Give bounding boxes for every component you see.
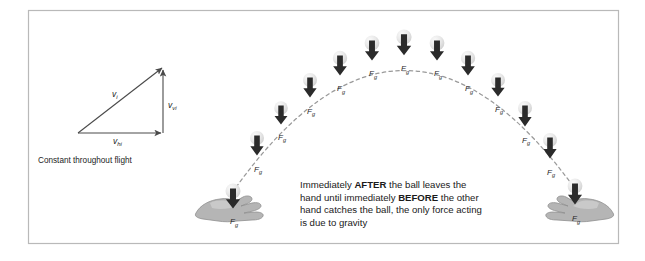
text-run: hand catches the ball, the only force ac…	[300, 204, 482, 215]
figure-canvas: vi vvi vhi Constant throughout flight Fg…	[0, 0, 645, 261]
text-run: hand until immediately	[300, 192, 398, 203]
text-run: the ball leaves the	[386, 179, 466, 190]
explanation-line: hand until immediately BEFORE the other	[300, 192, 479, 203]
explanation-line: Immediately AFTER the ball leaves the	[300, 179, 466, 190]
text-run: is due to gravity	[300, 217, 367, 228]
explanation-line: hand catches the ball, the only force ac…	[300, 204, 482, 215]
emphasis-word: AFTER	[354, 179, 386, 190]
text-run: the other	[438, 192, 479, 203]
explanation-line: is due to gravity	[300, 217, 367, 228]
vector-triangle-caption: Constant throughout flight	[38, 156, 132, 165]
projectile-motion-figure: vi vvi vhi Constant throughout flight Fg…	[0, 0, 645, 261]
text-run: Immediately	[300, 179, 354, 190]
emphasis-word: BEFORE	[398, 192, 439, 203]
